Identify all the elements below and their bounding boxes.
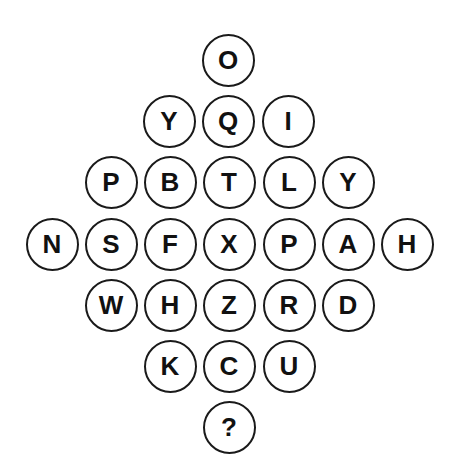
letter-circle: X: [203, 218, 256, 271]
letter-diamond-puzzle: OYQIPBTLYNSFXPAHWHZRDKCU?: [0, 0, 462, 476]
letter: D: [339, 292, 358, 318]
letter-circle: R: [263, 279, 316, 332]
letter-circle: Y: [322, 156, 375, 209]
letter: L: [281, 169, 297, 195]
letter-circle: K: [144, 340, 197, 393]
question-mark: ?: [221, 414, 237, 440]
letter: S: [102, 231, 119, 257]
letter-circle: Y: [143, 95, 196, 148]
letter-circle: O: [202, 34, 255, 87]
letter: B: [161, 169, 180, 195]
letter: Y: [160, 108, 177, 134]
letter: P: [102, 169, 119, 195]
letter-circle: U: [263, 340, 316, 393]
letter-circle: T: [203, 156, 256, 209]
letter-circle: P: [263, 218, 316, 271]
letter: F: [162, 231, 178, 257]
letter: T: [221, 169, 237, 195]
letter: H: [161, 292, 180, 318]
letter: W: [99, 292, 124, 318]
letter: Y: [339, 169, 356, 195]
letter-circle: A: [322, 218, 375, 271]
letter-circle: F: [144, 218, 197, 271]
letter: U: [280, 353, 299, 379]
letter: N: [43, 231, 62, 257]
letter: I: [284, 108, 291, 134]
letter-circle: Q: [202, 95, 255, 148]
letter: P: [280, 231, 297, 257]
letter: A: [339, 231, 358, 257]
letter-circle: H: [381, 218, 434, 271]
letter: K: [161, 353, 180, 379]
letter-circle: Z: [203, 279, 256, 332]
letter: Q: [218, 108, 238, 134]
letter-circle: S: [85, 218, 138, 271]
letter-circle: N: [26, 218, 79, 271]
letter-circle: D: [322, 279, 375, 332]
mystery-letter-circle: ?: [203, 401, 256, 454]
letter-circle: C: [203, 340, 256, 393]
letter-circle: P: [85, 156, 138, 209]
letter-circle: I: [262, 95, 315, 148]
letter: X: [220, 231, 237, 257]
letter: O: [218, 47, 238, 73]
letter-circle: B: [144, 156, 197, 209]
letter: Z: [221, 292, 237, 318]
letter: H: [398, 231, 417, 257]
letter-circle: L: [263, 156, 316, 209]
letter-circle: W: [85, 279, 138, 332]
letter-circle: H: [144, 279, 197, 332]
letter: R: [280, 292, 299, 318]
letter: C: [220, 353, 239, 379]
